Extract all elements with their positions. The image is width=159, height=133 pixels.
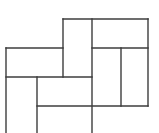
tiling-svg bbox=[0, 0, 159, 133]
tiling-figure bbox=[0, 0, 159, 133]
